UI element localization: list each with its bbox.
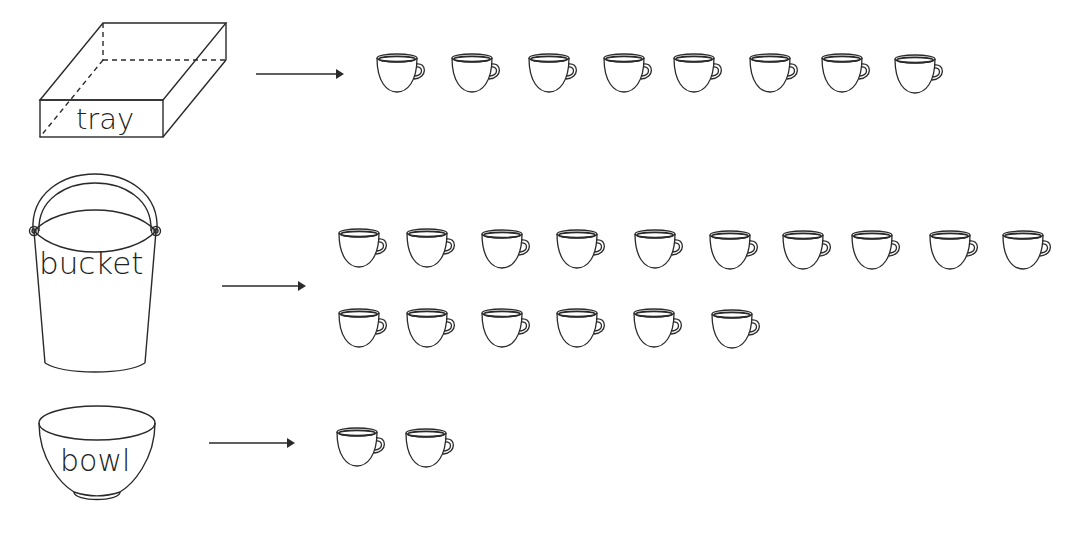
arrow-icon — [222, 280, 322, 292]
cup-icon — [781, 229, 835, 271]
cup-icon — [928, 229, 982, 271]
tray-label: tray — [76, 102, 134, 136]
cup-icon — [893, 53, 947, 95]
cup-icon — [527, 52, 581, 94]
cup-icon — [375, 52, 429, 94]
cup-icon — [335, 426, 389, 468]
cup-icon — [710, 308, 764, 350]
cup-icon — [672, 52, 726, 94]
cup-icon — [632, 307, 686, 349]
cup-icon — [708, 229, 762, 271]
cup-icon — [480, 228, 534, 270]
cup-icon — [337, 227, 391, 269]
cup-icon — [555, 228, 609, 270]
cup-icon — [404, 427, 458, 469]
cup-icon — [450, 52, 504, 94]
cup-icon — [633, 228, 687, 270]
cup-icon — [820, 52, 874, 94]
cup-icon — [405, 307, 459, 349]
cup-icon — [337, 307, 391, 349]
arrow-icon — [256, 68, 356, 80]
cup-icon — [555, 307, 609, 349]
arrow-icon — [209, 437, 309, 449]
cup-icon — [1001, 229, 1055, 271]
cup-icon — [850, 229, 904, 271]
cup-icon — [405, 227, 459, 269]
cup-icon — [748, 52, 802, 94]
cup-icon — [480, 307, 534, 349]
cup-icon — [602, 52, 656, 94]
bucket-label: bucket — [39, 245, 143, 281]
bowl-label: bowl — [60, 443, 130, 478]
